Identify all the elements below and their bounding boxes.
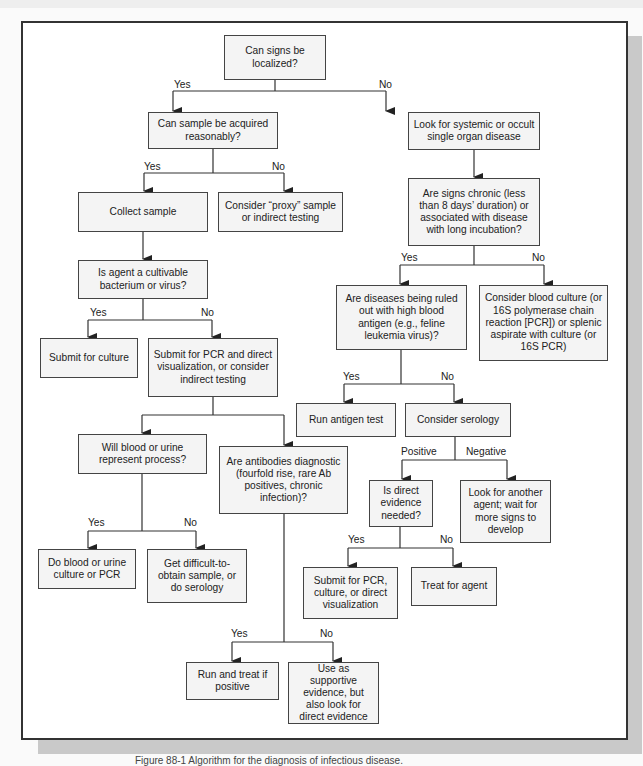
node-are-antibodies-diagnostic: Are antibodies diagnostic (fourfold rise…	[219, 446, 348, 514]
node-do-blood-urine-culture: Do blood or urine culture or PCR	[38, 549, 136, 589]
node-can-signs-be-localized: Can signs be localized?	[224, 35, 326, 80]
node-run-and-treat-if-positive: Run and treat if positive	[186, 662, 279, 700]
edge-label-yes: Yes	[88, 517, 105, 528]
edge-label-no: No	[320, 628, 333, 639]
edge-label-yes: Yes	[174, 79, 191, 90]
figure-caption: Figure 88-1 Algorithm for the diagnosis …	[135, 755, 403, 766]
edge-label-no: No	[184, 517, 197, 528]
edge-label-no: No	[201, 307, 214, 318]
node-get-difficult-sample: Get difficult-to-obtain sample, or do se…	[147, 549, 247, 603]
edge-label-yes: Yes	[343, 371, 360, 382]
node-are-signs-chronic: Are signs chronic (less than 8 days’ dur…	[408, 178, 540, 246]
edge-label-no: No	[272, 161, 285, 172]
frame-shadow-bottom	[38, 740, 642, 754]
node-submit-for-pcr-direct: Submit for PCR and direct visualization,…	[148, 338, 278, 397]
node-consider-proxy-sample: Consider “proxy” sample or indirect test…	[218, 192, 343, 232]
node-are-diseases-ruled-out: Are diseases being ruled out with high b…	[336, 285, 467, 350]
node-treat-for-agent: Treat for agent	[411, 567, 497, 606]
node-look-for-systemic-disease: Look for systemic or occult single organ…	[408, 112, 540, 150]
node-collect-sample: Collect sample	[78, 192, 208, 232]
edge-label-yes: Yes	[348, 534, 365, 545]
edge-label-no: No	[532, 252, 545, 263]
edge-label-negative: Negative	[466, 446, 506, 457]
node-will-blood-urine-represent: Will blood or urine represent process?	[78, 434, 207, 474]
edge-label-positive: Positive	[401, 446, 437, 457]
node-is-agent-cultivable: Is agent a cultivable bacterium or virus…	[78, 260, 208, 299]
top-band	[0, 0, 643, 8]
node-run-antigen-test: Run antigen test	[296, 403, 396, 437]
node-submit-for-culture: Submit for culture	[40, 338, 138, 378]
node-look-for-another-agent: Look for another agent; wait for more si…	[460, 480, 551, 543]
edge-label-no: No	[379, 79, 392, 90]
edge-label-no: No	[440, 534, 453, 545]
node-can-sample-be-acquired: Can sample be acquired reasonably?	[148, 112, 278, 149]
node-use-as-supportive-evidence: Use as supportive evidence, but also loo…	[288, 662, 379, 724]
edge-label-yes: Yes	[401, 252, 418, 263]
edge-label-no: No	[441, 371, 454, 382]
edge-label-yes: Yes	[231, 628, 248, 639]
node-is-direct-evidence-needed: Is direct evidence needed?	[369, 480, 433, 527]
node-submit-pcr-culture-visualization: Submit for PCR, culture, or direct visua…	[303, 567, 398, 619]
edge-label-yes: Yes	[90, 307, 107, 318]
frame-shadow-right	[628, 36, 642, 754]
node-consider-serology: Consider serology	[405, 403, 511, 437]
edge-label-yes: Yes	[144, 161, 161, 172]
node-consider-blood-culture: Consider blood culture (or 16S polymeras…	[479, 285, 608, 361]
